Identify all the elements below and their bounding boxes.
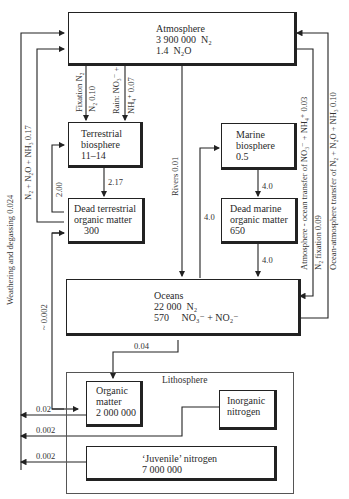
land-to-atm-label: N₂ + N₂O + NH₃ 0.17 [24, 125, 33, 200]
ocean-n2-fixation-label: N₂ fixation 0.09 [314, 215, 323, 270]
rivers-label: Rivers 0.01 [171, 157, 180, 196]
dead-marine-to-ocean-label: 4.0 [262, 256, 273, 265]
dead-terrestrial-label-1: Dead terrestrial [74, 203, 136, 214]
organic-label-2: matter [96, 396, 122, 407]
inorganic-out-label: 0.002 [36, 426, 55, 435]
dead-terrestrial-label-2: organic matter [74, 214, 132, 225]
organic-value: 2 000 000 [96, 407, 136, 418]
dead-marine-label-2: organic matter [230, 214, 288, 225]
inorganic-label-1: Inorganic [227, 395, 265, 406]
organic-matter-box: Organic matter 2 000 000 [86, 381, 143, 427]
dead-terrestrial-value: 300 [84, 225, 99, 236]
dead-marine-label-1: Dead marine [230, 203, 281, 214]
oceans-no3: 570 NO₃⁻ + NO₂⁻ [154, 312, 239, 323]
oceans-n2: 22 000 N₂ [154, 301, 197, 312]
juvenile-value: 7 000 000 [142, 464, 182, 475]
litho-to-dead-terr-label: ~ 0.002 [40, 304, 49, 330]
fixation-label-a: Fixation N₂ [75, 72, 84, 112]
dead-to-terr-label: 2.00 [55, 182, 64, 197]
lithosphere-title: Lithosphere [162, 376, 207, 385]
ocean-to-marine-label: 4.0 [204, 213, 215, 222]
dead-marine-value: 650 [230, 225, 245, 236]
terrestrial-label-2: biosphere [81, 139, 120, 150]
marine-label-1: Marine [236, 129, 265, 140]
atmosphere-n2: 3 900 000 N₂ [156, 34, 212, 45]
weathering-label: Weathering and degassing 0.024 [6, 195, 15, 305]
juvenile-out-label: 0.002 [36, 452, 55, 461]
dead-terrestrial-box: Dead terrestrial organic matter 300 [68, 198, 145, 244]
dead-marine-box: Dead marine organic matter 650 [221, 198, 298, 244]
oceans-title: Oceans [154, 290, 183, 301]
juvenile-nitrogen-box: ‘Juvenile’ nitrogen 7 000 000 [86, 446, 277, 481]
organic-label-1: Organic [96, 385, 128, 396]
marine-to-dead-label: 4.0 [262, 182, 273, 191]
marine-biosphere-box: Marine biosphere 0.5 [221, 123, 297, 170]
rain-label-a: Rain: NO₃⁻ + [112, 67, 121, 114]
atmosphere-box: Atmosphere 3 900 000 N₂ 1.4 N₂O [68, 12, 297, 66]
atmosphere-title: Atmosphere [156, 23, 205, 34]
inorganic-nitrogen-box: Inorganic nitrogen [219, 390, 277, 430]
juvenile-label: ‘Juvenile’ nitrogen [142, 453, 217, 464]
marine-label-2: biosphere [236, 140, 275, 151]
marine-value: 0.5 [236, 151, 249, 162]
inorganic-label-2: nitrogen [227, 406, 260, 417]
oceans-box: Oceans 22 000 N₂ 570 NO₃⁻ + NO₂⁻ [66, 279, 301, 336]
fixation-label-b: N₂ 0.10 [88, 86, 97, 112]
organic-out-label: 0.02 [36, 405, 51, 414]
ocean-to-litho-label: 0.04 [134, 342, 149, 351]
atm-ocean-transfer-label: Atmosphere - ocean transfer of NO₃⁻ + NH… [300, 97, 309, 270]
rain-label-b: NH₄⁺ 0.07 [127, 77, 136, 114]
ocean-atm-transfer-label: Ocean-atmosphere transfer of N₂ + N₂O + … [329, 92, 338, 270]
atmosphere-n2o: 1.4 N₂O [156, 45, 191, 56]
terrestrial-label-1: Terrestrial [81, 128, 122, 139]
terrestrial-biosphere-box: Terrestrial biosphere 11–14 [68, 122, 143, 168]
terrestrial-value: 11–14 [81, 150, 106, 161]
terr-to-dead-label: 2.17 [108, 178, 123, 187]
